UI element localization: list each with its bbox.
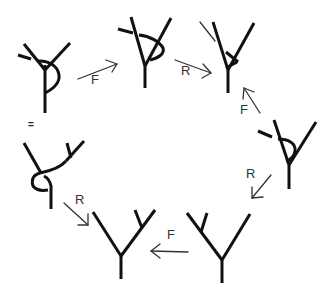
tree-3 xyxy=(200,22,254,93)
label-move-4: R xyxy=(246,167,255,180)
label-move-6: R xyxy=(75,193,84,206)
label-move-3: F xyxy=(240,103,248,116)
tree-2 xyxy=(118,17,171,88)
tree-6 xyxy=(187,213,250,283)
diagram-canvas: = F R F R F R xyxy=(0,0,336,299)
label-move-2: R xyxy=(181,64,190,77)
label-move-1: F xyxy=(91,73,99,86)
tree-4 xyxy=(258,120,316,189)
tree-5 xyxy=(93,210,155,279)
equals-sign: = xyxy=(28,120,34,130)
diagram-svg xyxy=(0,0,336,299)
tree-1 xyxy=(18,43,70,113)
label-move-5: F xyxy=(167,228,175,241)
arrow-move-5 xyxy=(151,244,188,258)
